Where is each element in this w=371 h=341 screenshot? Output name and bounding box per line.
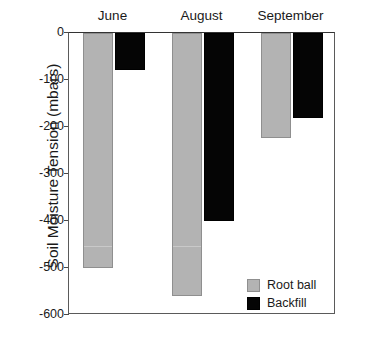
y-tick-label: -500 <box>24 260 64 274</box>
y-tick-mark <box>64 314 69 315</box>
y-tick-label: -100 <box>24 72 64 86</box>
y-tick-label: -600 <box>24 307 64 321</box>
bar-september-root-ball <box>261 33 291 138</box>
bar-inner-rule <box>173 246 201 247</box>
y-tick-label: 0 <box>24 25 64 39</box>
y-tick-label: -400 <box>24 213 64 227</box>
category-label-june: June <box>98 8 127 23</box>
bar-september-backfill <box>293 33 323 118</box>
legend-swatch-root-ball <box>247 279 260 292</box>
y-tick-label: -300 <box>24 166 64 180</box>
bar-inner-rule <box>84 246 112 247</box>
legend-swatch-backfill <box>247 297 260 310</box>
y-tick-label: -200 <box>24 119 64 133</box>
bar-chart: Soil Moisture Tension (mbars) 0-100-200-… <box>0 0 371 341</box>
legend-item-backfill: Backfill <box>247 295 316 311</box>
legend-label: Root ball <box>267 278 316 292</box>
legend: Root ballBackfill <box>247 277 316 313</box>
plot-area <box>68 32 335 314</box>
category-label-august: August <box>180 8 222 23</box>
bar-august-backfill <box>204 33 234 221</box>
figure-bottom-strip <box>0 335 371 341</box>
legend-item-root-ball: Root ball <box>247 277 316 293</box>
category-label-september: September <box>257 8 323 23</box>
bar-june-root-ball <box>83 33 113 268</box>
bar-august-root-ball <box>172 33 202 296</box>
y-axis-ticks: 0-100-200-300-400-500-600 <box>20 0 64 341</box>
legend-label: Backfill <box>267 296 307 310</box>
bar-june-backfill <box>115 33 145 70</box>
